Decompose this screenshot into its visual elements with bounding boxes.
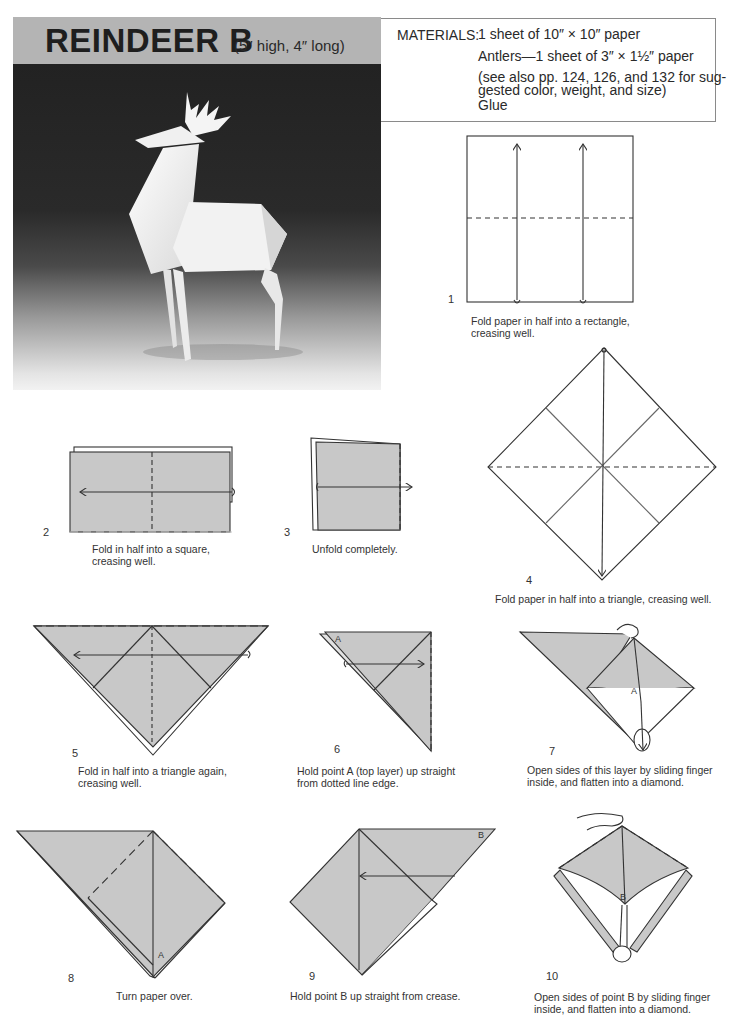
step-number: 9 — [309, 970, 315, 982]
step-caption-line: from dotted line edge. — [297, 777, 455, 789]
step-10-diagram — [554, 813, 692, 962]
step-caption-line: creasing well. — [78, 777, 227, 789]
step-number: 1 — [448, 293, 454, 305]
step-caption-line: inside, and flatten into a diamond. — [534, 1003, 710, 1015]
step-7-diagram — [520, 624, 694, 751]
step-caption-line: Fold paper in half into a rectangle, — [471, 315, 630, 327]
step-caption: Fold paper in half into a triangle, crea… — [495, 593, 712, 605]
point-b-label-step9: B — [478, 830, 484, 840]
point-a-label-step6: A — [335, 634, 341, 644]
step-caption-line: Open sides of point B by sliding finger — [534, 991, 710, 1003]
step-number: 8 — [68, 972, 74, 984]
step-caption-line: Hold point A (top layer) up straight — [297, 765, 455, 777]
step-caption: Open sides of point B by sliding finger … — [534, 991, 710, 1015]
step-number: 2 — [43, 526, 49, 538]
folding-diagrams: A A A B B — [0, 0, 735, 1028]
step-number: 7 — [549, 745, 555, 757]
step-1-diagram — [467, 136, 633, 303]
point-a-label-step7: A — [631, 686, 637, 696]
step-number: 4 — [526, 574, 532, 586]
step-caption: Hold point A (top layer) up straight fro… — [297, 765, 455, 789]
step-5-diagram — [34, 626, 268, 755]
step-caption: Open sides of this layer by sliding fing… — [527, 764, 713, 788]
step-caption: Turn paper over. — [116, 990, 193, 1002]
step-4-diagram — [488, 348, 716, 580]
step-caption: Fold in half into a square, creasing wel… — [92, 543, 210, 567]
step-caption-line: creasing well. — [471, 327, 630, 339]
step-caption: Hold point B up straight from crease. — [290, 990, 460, 1002]
step-caption-line: Hold point B up straight from crease. — [290, 990, 460, 1002]
step-3-diagram — [311, 438, 412, 530]
step-caption-line: Fold in half into a triangle again, — [78, 765, 227, 777]
step-number: 10 — [546, 970, 558, 982]
step-9-diagram — [290, 829, 495, 975]
point-a-label-step8: A — [158, 950, 164, 960]
step-caption-line: creasing well. — [92, 555, 210, 567]
step-6-diagram — [320, 632, 431, 751]
step-caption-line: Turn paper over. — [116, 990, 193, 1002]
step-caption: Fold in half into a triangle again, crea… — [78, 765, 227, 789]
step-caption-line: Fold in half into a square, — [92, 543, 210, 555]
step-2-diagram — [70, 447, 235, 532]
point-b-label-step10: B — [620, 892, 626, 902]
step-caption-line: Unfold completely. — [312, 543, 398, 555]
step-number: 5 — [72, 747, 78, 759]
step-caption-line: Fold paper in half into a triangle, crea… — [495, 593, 712, 605]
step-caption-line: Open sides of this layer by sliding fing… — [527, 764, 713, 776]
step-8-diagram — [17, 831, 225, 978]
step-number: 6 — [334, 743, 340, 755]
step-caption: Unfold completely. — [312, 543, 398, 555]
step-caption: Fold paper in half into a rectangle, cre… — [471, 315, 630, 339]
step-number: 3 — [284, 526, 290, 538]
step-caption-line: inside, and flatten into a diamond. — [527, 776, 713, 788]
